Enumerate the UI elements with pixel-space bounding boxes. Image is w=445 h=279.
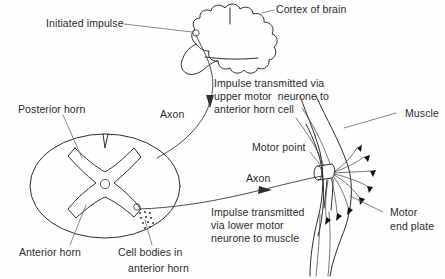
leader-motor-end-plate — [350, 196, 383, 212]
lower-motor-axon-path — [140, 176, 322, 209]
label-upper-motor-note-line1: Impulse transmitted via — [214, 77, 324, 90]
label-upper-motor-note-line3: anterior horn cell — [214, 103, 294, 116]
label-motor-end-plate-line1: Motor — [390, 206, 417, 219]
nerve-trunk-cylinder — [314, 164, 335, 210]
label-lower-motor-note-line2: via lower motor — [211, 219, 284, 232]
leader-cell-bodies — [145, 220, 152, 245]
label-muscle: Muscle — [405, 107, 439, 120]
label-cell-bodies-line1: Cell bodies in — [118, 246, 182, 259]
label-lower-motor-note-line1: Impulse transmitted — [211, 206, 305, 219]
label-anterior-horn: Anterior horn — [19, 246, 81, 259]
label-posterior-horn: Posterior horn — [18, 103, 85, 116]
leader-initiated-impulse — [124, 24, 192, 32]
brain-outline-icon — [181, 4, 277, 74]
motor-pathway-diagram: Initiated impulse Cortex of brain Impuls… — [0, 0, 445, 279]
spinal-cord-outline — [30, 134, 180, 238]
leader-cortex-of-brain — [262, 10, 274, 13]
label-cortex-of-brain: Cortex of brain — [276, 3, 346, 16]
lower-axon-arrowhead — [258, 186, 272, 194]
label-axon-upper: Axon — [160, 108, 184, 121]
label-cell-bodies-line2: anterior horn — [128, 262, 189, 275]
muscle-belly-outline — [296, 96, 351, 276]
leader-anterior-horn — [70, 205, 86, 245]
leader-muscle — [344, 113, 396, 128]
label-upper-motor-note-line2: upper motor neurone to — [214, 90, 329, 103]
label-axon-lower: Axon — [246, 172, 270, 185]
label-initiated-impulse: Initiated impulse — [46, 17, 124, 30]
nerve-branches — [326, 148, 370, 217]
label-lower-motor-note-line3: neurone to muscle — [211, 232, 299, 245]
gray-matter-butterfly — [68, 148, 141, 218]
label-motor-point: Motor point — [252, 141, 306, 154]
central-canal — [100, 179, 109, 188]
label-motor-end-plate-line2: end plate — [390, 220, 434, 233]
upper-axon-arrowhead — [206, 95, 214, 108]
